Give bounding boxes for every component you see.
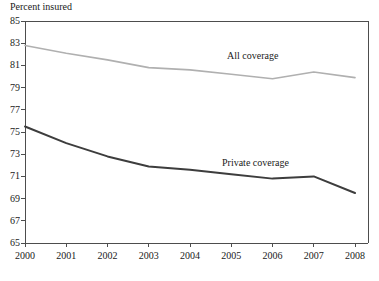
x-tick-label: 2003: [129, 251, 169, 261]
chart-series-lines: [25, 45, 355, 193]
series-line-all-coverage: [25, 45, 355, 78]
x-tick-label: 2006: [253, 251, 293, 261]
series-line-private-coverage: [25, 126, 355, 193]
y-tick-label: 69: [0, 194, 20, 204]
y-tick-label: 77: [0, 105, 20, 115]
series-annotation: All coverage: [227, 50, 278, 61]
x-tick-label: 2000: [5, 251, 45, 261]
series-annotation: Private coverage: [222, 157, 289, 168]
y-tick-label: 83: [0, 38, 20, 48]
y-tick-label: 71: [0, 171, 20, 181]
x-tick-label: 2001: [46, 251, 86, 261]
x-tick-label: 2005: [211, 251, 251, 261]
y-tick-label: 81: [0, 60, 20, 70]
y-tick-label: 79: [0, 83, 20, 93]
chart-plot-area: [0, 0, 379, 281]
y-tick-label: 65: [0, 238, 20, 248]
chart-tick-marks: [21, 21, 355, 247]
x-tick-label: 2002: [88, 251, 128, 261]
y-tick-label: 75: [0, 127, 20, 137]
y-tick-label: 73: [0, 149, 20, 159]
x-tick-label: 2004: [170, 251, 210, 261]
x-tick-label: 2007: [294, 251, 334, 261]
y-tick-label: 85: [0, 16, 20, 26]
chart-container: Percent insured 6567697173757779818385 2…: [0, 0, 379, 281]
y-tick-label: 67: [0, 216, 20, 226]
x-tick-label: 2008: [335, 251, 375, 261]
